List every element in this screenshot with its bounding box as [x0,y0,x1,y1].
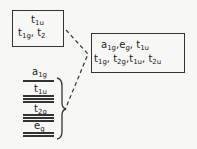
dashed-connector [65,30,88,110]
curly-brace-icon [57,78,66,139]
connectors-layer [0,0,197,149]
